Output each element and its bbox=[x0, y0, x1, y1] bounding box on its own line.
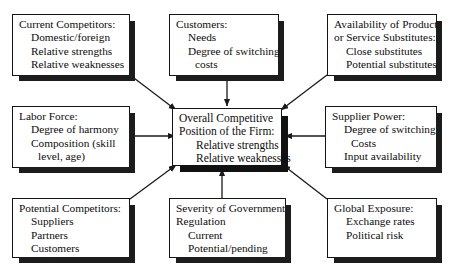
node-overall-competitive-position[interactable]: Overall Competitive Position of the Firm… bbox=[172, 108, 282, 166]
node-item: Current bbox=[176, 229, 281, 242]
node-global-exposure[interactable]: Global Exposure: Exchange rates Politica… bbox=[327, 198, 437, 258]
node-item: Costs bbox=[332, 137, 432, 150]
node-body: Current Competitors: Domestic/foreign Re… bbox=[13, 15, 129, 75]
node-heading: Supplier Power: bbox=[332, 110, 432, 123]
node-heading: Customers: bbox=[176, 18, 274, 31]
node-heading: Overall Competitive bbox=[179, 112, 277, 125]
node-potential-competitors[interactable]: Potential Competitors: Suppliers Partner… bbox=[12, 198, 130, 258]
node-item: Relative strengths bbox=[19, 45, 125, 58]
node-item: Potential/pending bbox=[176, 242, 281, 255]
node-item: Suppliers bbox=[19, 215, 125, 228]
node-item: Input availability bbox=[332, 150, 432, 163]
node-item: Relative weaknesses bbox=[19, 58, 125, 71]
node-government-regulation[interactable]: Severity of Government Regulation Curren… bbox=[169, 198, 286, 258]
arrow-substitutes-to-center bbox=[281, 75, 327, 110]
arrow-global-exposure-to-center bbox=[283, 165, 327, 199]
node-heading: Potential Competitors: bbox=[19, 202, 125, 215]
node-heading: Severity of Government bbox=[176, 202, 281, 215]
node-item: costs bbox=[176, 58, 274, 71]
node-item: Degree of switching bbox=[332, 123, 432, 136]
node-heading-2: Regulation bbox=[176, 215, 281, 228]
node-body: Severity of Government Regulation Curren… bbox=[170, 199, 285, 257]
node-heading-2: or Service Substitutes: bbox=[334, 31, 432, 44]
node-item: Customers bbox=[19, 242, 125, 255]
node-item: Domestic/foreign bbox=[19, 31, 125, 44]
diagram-canvas: Current Competitors: Domestic/foreign Re… bbox=[0, 0, 453, 267]
node-heading: Global Exposure: bbox=[334, 202, 432, 215]
node-body: Potential Competitors: Suppliers Partner… bbox=[13, 199, 129, 257]
node-item: Close substitutes bbox=[334, 45, 432, 58]
node-heading: Current Competitors: bbox=[19, 18, 125, 31]
node-item: Potential substitutes bbox=[334, 58, 432, 71]
node-body: Global Exposure: Exchange rates Politica… bbox=[328, 199, 436, 257]
node-item: Needs bbox=[176, 31, 274, 44]
node-item: Degree of harmony bbox=[19, 123, 125, 136]
node-item: Relative weaknesses bbox=[179, 152, 277, 165]
node-availability-of-substitutes[interactable]: Availability of Product or Service Subst… bbox=[327, 14, 437, 76]
node-current-competitors[interactable]: Current Competitors: Domestic/foreign Re… bbox=[12, 14, 130, 76]
node-body: Labor Force: Degree of harmony Compositi… bbox=[13, 107, 129, 167]
arrow-potential-competitors-to-center bbox=[130, 165, 176, 199]
node-heading: Labor Force: bbox=[19, 110, 125, 123]
node-body: Supplier Power: Degree of switching Cost… bbox=[326, 107, 436, 167]
node-heading: Availability of Product bbox=[334, 18, 432, 31]
node-item: Composition (skill bbox=[19, 137, 125, 150]
node-item: Political risk bbox=[334, 229, 432, 242]
node-labor-force[interactable]: Labor Force: Degree of harmony Compositi… bbox=[12, 106, 130, 168]
node-supplier-power[interactable]: Supplier Power: Degree of switching Cost… bbox=[325, 106, 437, 168]
node-item: Partners bbox=[19, 229, 125, 242]
node-item: Exchange rates bbox=[334, 215, 432, 228]
node-customers[interactable]: Customers: Needs Degree of switching cos… bbox=[169, 14, 279, 76]
node-item: Degree of switching bbox=[176, 45, 274, 58]
node-item: Relative strengths bbox=[179, 139, 277, 152]
arrow-current-competitors-to-center bbox=[130, 75, 176, 110]
node-body: Availability of Product or Service Subst… bbox=[328, 15, 436, 75]
node-item: level, age) bbox=[19, 150, 125, 163]
node-heading-2: Position of the Firm: bbox=[179, 125, 277, 138]
node-body: Overall Competitive Position of the Firm… bbox=[173, 109, 281, 165]
node-body: Customers: Needs Degree of switching cos… bbox=[170, 15, 278, 75]
